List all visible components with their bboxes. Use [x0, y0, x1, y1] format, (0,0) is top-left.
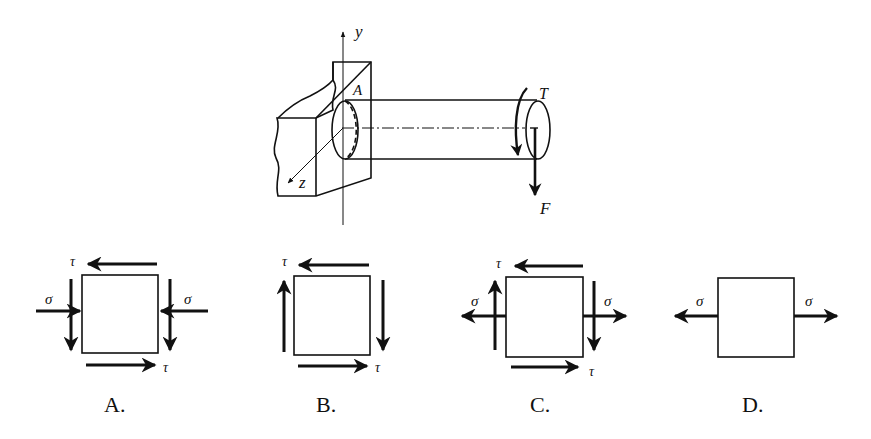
svg-text:σ: σ [696, 293, 704, 309]
svg-text:τ: τ [589, 364, 595, 379]
option-b-label[interactable]: B. [316, 392, 336, 417]
svg-text:τ: τ [70, 254, 76, 269]
y-axis-label: y [353, 22, 363, 41]
svg-text:σ: σ [184, 291, 192, 307]
torque-arrow [516, 88, 527, 155]
svg-text:σ: σ [604, 293, 612, 309]
svg-text:σ: σ [45, 291, 53, 307]
option-c-label[interactable]: C. [530, 392, 550, 417]
force-label: F [539, 199, 551, 218]
svg-text:τ: τ [282, 254, 288, 269]
figure-canvas: y z A T F τ σ σ τ A. τ τ B. [0, 0, 871, 439]
svg-text:τ: τ [375, 360, 381, 375]
option-a-label[interactable]: A. [104, 392, 125, 417]
svg-text:τ: τ [496, 256, 502, 271]
point-a-label: A [352, 82, 363, 98]
torque-label: T [539, 85, 549, 102]
cantilever-shaft-figure [274, 32, 550, 225]
svg-text:τ: τ [163, 360, 169, 375]
option-a-element[interactable]: τ σ σ τ [36, 254, 208, 375]
option-d-label[interactable]: D. [742, 392, 763, 417]
option-d-element[interactable]: σ σ [675, 278, 837, 357]
option-b-element[interactable]: τ τ [282, 254, 383, 375]
z-axis-label: z [298, 173, 306, 192]
svg-text:σ: σ [471, 293, 479, 309]
svg-text:σ: σ [805, 293, 813, 309]
option-c-element[interactable]: τ σ σ τ [462, 256, 626, 379]
